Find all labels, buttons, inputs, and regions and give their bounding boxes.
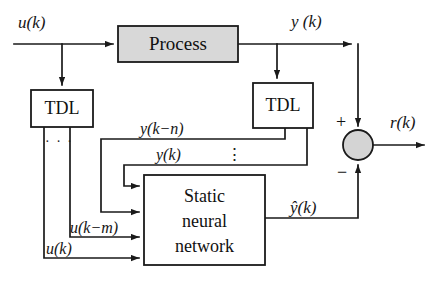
block-label-process: Process — [118, 33, 238, 54]
signal-label-u-k-m: u(k−m) — [70, 220, 118, 236]
tdl-left-ellipsis-dots: · · · — [45, 134, 74, 150]
signal-label-y-output: y (k) — [291, 13, 322, 30]
tdl-right-ellipsis-dots: ⋮ — [226, 144, 243, 165]
summer-plus-sign: + — [336, 112, 346, 133]
block-label-static-neural-network-line3: network — [144, 236, 265, 256]
signal-label-y-k: y(k) — [156, 147, 181, 163]
block-label-tdl-left: TDL — [31, 98, 93, 118]
signal-label-r-output: r(k) — [390, 114, 415, 131]
signal-label-y-hat: ŷ(k) — [290, 199, 316, 216]
block-diagram-canvas: u(k) y (k) r(k) y(k−n) y(k) u(k−m) u(k) … — [0, 0, 433, 282]
block-label-tdl-right: TDL — [253, 95, 313, 115]
summer-minus-sign: − — [337, 162, 347, 183]
summing-junction — [343, 130, 373, 160]
signal-label-y-k-n: y(k−n) — [140, 121, 184, 137]
block-label-static-neural-network-line1: Static — [144, 186, 265, 206]
signal-label-u-input: u(k) — [18, 14, 45, 31]
signal-label-u-k: u(k) — [46, 241, 72, 257]
block-label-static-neural-network-line2: neural — [144, 211, 265, 231]
